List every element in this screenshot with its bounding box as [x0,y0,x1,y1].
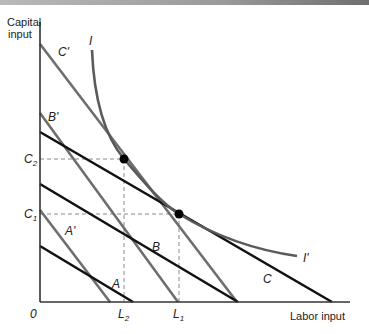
label-a-prime: A' [64,224,76,238]
y-axis-label-line1: Capital [7,16,41,28]
isoquant-label-start: I [89,34,93,48]
label-b-prime: B' [48,110,59,124]
dashed-guides [40,159,179,302]
isocost-a [40,246,133,302]
origin-label: 0 [30,307,37,321]
label-c: C [263,272,272,286]
label-a: A [111,277,120,291]
y-tick-c2: C2 [24,152,38,168]
y-tick-c1: C1 [24,207,37,223]
isocost-b-prime [40,113,178,302]
tangency-point-c1-l1 [175,210,184,219]
y-axis-label-line2: input [8,28,32,40]
label-c-prime: C' [58,45,70,59]
x-axis-label: Labor input [290,310,345,322]
isocost-b [40,184,238,302]
isoquant-label-end: I' [303,251,309,265]
tangency-point-c2-l2 [120,155,129,164]
label-b: B [152,240,160,254]
isocost-isoquant-diagram: Capital input Labor input 0 C2 C1 L2 L1 … [0,0,369,334]
x-tick-l1: L1 [173,307,184,323]
x-tick-l2: L2 [118,307,130,323]
